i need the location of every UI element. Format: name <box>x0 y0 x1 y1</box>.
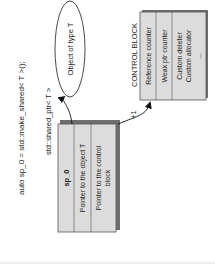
object-label: Object of type T <box>66 22 75 75</box>
control-block-title: CONTROL BLOCK <box>130 23 139 87</box>
arrow-to-object <box>63 97 72 124</box>
custom-allocator-row: Custom allocator <box>185 29 192 82</box>
pointer-to-object-row: Pointer to the object T <box>79 143 87 212</box>
pointer-to-control-row: Pointer to the control <box>95 145 102 210</box>
shared-ptr-box: sp_0 Pointer to the object T Pointer to … <box>58 124 116 232</box>
code-line: auto sp_0 = std::make_shared< T >(); <box>17 61 26 195</box>
reference-counter-row: Reference counter <box>145 27 152 85</box>
increment-label: +1 <box>129 110 138 119</box>
shared-ptr-type-label: std::shared_ptr< T > <box>44 87 53 155</box>
object-node: Object of type T <box>55 1 85 97</box>
custom-deleter-row: Custom deleter <box>176 32 183 80</box>
weak-ptr-counter-row: Weak ptr counter <box>161 29 169 83</box>
pointer-to-control-row-cont: block <box>104 169 111 186</box>
shared-ptr-diagram: auto sp_0 = std::make_shared< T >(); std… <box>0 0 215 265</box>
more-rows-ellipsis: ... <box>195 53 202 59</box>
control-block-box: Reference counter Weak ptr counter Custo… <box>140 12 206 100</box>
sp0-name: sp_0 <box>62 169 71 186</box>
